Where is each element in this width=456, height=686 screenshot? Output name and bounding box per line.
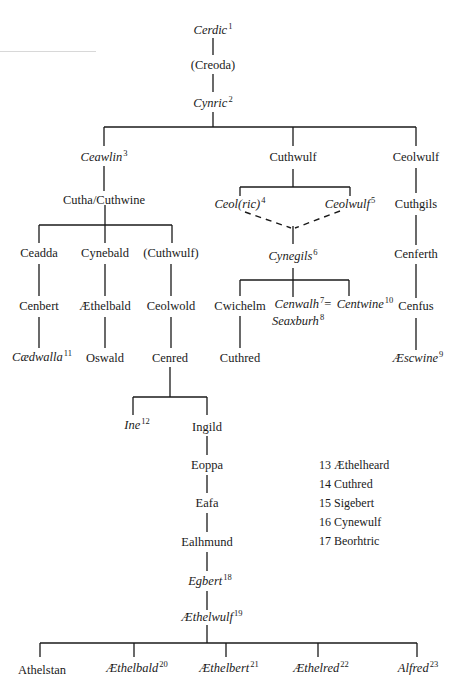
node-eafa: Eafa [196,496,219,510]
reign-number: 1 [228,21,232,31]
node-aethelbert: Æthelbert21 [199,661,259,675]
reign-number: 9 [439,349,443,359]
legend-item: 15 Sigebert [319,496,374,510]
node-name: Cenbert [19,299,59,313]
node-cynebald: Cynebald [81,246,129,260]
node-name: Eoppa [191,458,223,472]
node-name: Ceolwulf [393,150,440,164]
node-cenwalh: Cenwalh7= [275,297,332,311]
node-centwine: Centwine10 [337,297,394,311]
reign-number: 4 [261,195,265,205]
node-name: Æthelbald [79,299,130,313]
node-name: Cenred [152,351,188,365]
node-ealhmund: Ealhmund [181,535,232,549]
node-eoppa: Eoppa [191,458,223,472]
node-name: Cenferth [394,247,438,261]
reign-number: 19 [234,608,243,618]
node-cuthgils: Cuthgils [395,197,437,211]
node-ceawlin: Ceawlin3 [81,150,128,164]
node-name: Ealhmund [181,535,232,549]
node-name: Cynebald [81,246,129,260]
node-ceolric: Ceol(ric)4 [214,197,265,211]
node-seaxburh: Seaxburh8 [272,314,324,328]
node-aethelwulf: Æthelwulf19 [182,610,243,624]
node-oswald: Oswald [86,351,124,365]
reign-number: 22 [340,659,349,669]
node-name: Seaxburh [272,314,319,328]
node-name: Æthelwulf [182,610,233,624]
node-egbert: Egbert18 [188,574,232,588]
node-name: Ine [124,418,140,432]
node-alfred: Alfred23 [398,661,438,675]
node-cenbert: Cenbert [19,299,59,313]
node-athelstan: Athelstan [18,663,66,677]
node-name: Centwine [337,297,384,311]
node-ceadda: Ceadda [20,246,57,260]
node-aethelbald: Æthelbald20 [106,661,168,675]
node-cwichelm: Cwichelm [214,299,265,313]
node-name: Æthelred [293,661,339,675]
node-ceolwold: Ceolwold [147,299,196,313]
node-name: (Creoda) [191,58,235,72]
reign-number: 3 [123,148,127,158]
reign-number: 6 [313,247,317,257]
node-creoda: (Creoda) [191,58,235,72]
reign-number: 20 [159,659,168,669]
node-name: Oswald [86,351,124,365]
node-cerdic: Cerdic1 [194,23,233,37]
node-cynegils: Cynegils6 [269,249,318,263]
node-aescwine: Æscwine9 [393,351,443,365]
legend-item: 13 Æthelheard [319,458,389,472]
node-cuthwulf-paren: (Cuthwulf) [143,246,199,260]
node-aethelred: Æthelred22 [293,661,349,675]
node-cenfus: Cenfus [398,299,433,313]
node-ceolwulf: Ceolwulf [393,150,440,164]
node-name: (Cuthwulf) [143,246,199,260]
reign-number: 12 [141,416,150,426]
node-name: Ceadda [20,246,57,260]
node-caedwalla: Cædwalla11 [12,350,72,364]
node-name: Athelstan [18,663,66,677]
node-name: Cynric [193,96,227,110]
node-ceolwulf-king: Ceolwulf5 [325,197,375,211]
node-name: Æthelbert [199,661,249,675]
node-name: Cenwalh [275,297,319,311]
node-name: Cuthwulf [269,150,316,164]
reign-number: 5 [371,195,375,205]
reign-number: 8 [320,312,324,322]
node-name: Ceolwold [147,299,196,313]
marriage-sign: = [324,297,331,311]
legend-item: 14 Cuthred [319,477,373,491]
node-name: Ceol(ric) [214,197,260,211]
reign-number: 21 [250,659,259,669]
reign-number: 11 [64,348,72,358]
node-cuthwulf: Cuthwulf [269,150,316,164]
node-aethelbald-a: Æthelbald [79,299,130,313]
node-name: Cuthgils [395,197,437,211]
node-name: Cynegils [269,249,313,263]
node-name: Cutha/Cuthwine [63,193,145,207]
reign-number: 10 [385,295,394,305]
reign-number: 18 [223,572,232,582]
legend-item: 17 Beorhtric [319,534,379,548]
node-cenferth: Cenferth [394,247,438,261]
node-cutha-cuthwine: Cutha/Cuthwine [63,193,145,207]
node-name: Cenfus [398,299,433,313]
node-name: Ceawlin [81,150,123,164]
node-name: Cerdic [194,23,228,37]
node-name: Ingild [192,420,222,434]
node-name: Eafa [196,496,219,510]
node-name: Ceolwulf [325,197,370,211]
node-cuthred: Cuthred [220,351,260,365]
node-cynric: Cynric2 [193,96,232,110]
node-cenred: Cenred [152,351,188,365]
node-name: Egbert [188,574,222,588]
legend-item: 16 Cynewulf [319,515,381,529]
node-name: Cædwalla [12,350,63,364]
node-name: Cwichelm [214,299,265,313]
node-name: Æscwine [393,351,438,365]
reign-number: 23 [430,659,439,669]
reign-number: 2 [228,94,232,104]
node-name: Cuthred [220,351,260,365]
node-name: Alfred [398,661,429,675]
